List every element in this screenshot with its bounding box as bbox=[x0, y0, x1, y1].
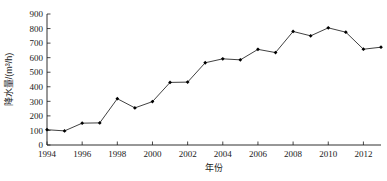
x-tick-label: 2000 bbox=[143, 149, 162, 159]
y-tick-label: 600 bbox=[30, 53, 44, 63]
chart-canvas: 0100200300400500600700800900 19941996199… bbox=[0, 0, 387, 181]
y-tick-label: 900 bbox=[30, 9, 44, 19]
data-point-marker bbox=[238, 58, 242, 62]
data-point-marker bbox=[63, 129, 67, 133]
x-tick-label: 1996 bbox=[73, 149, 92, 159]
y-axis-tick-marks bbox=[47, 14, 51, 145]
y-tick-label: 400 bbox=[30, 82, 44, 92]
x-tick-label: 2012 bbox=[354, 149, 372, 159]
data-point-marker bbox=[45, 128, 49, 132]
y-tick-label: 100 bbox=[30, 126, 44, 136]
x-tick-label: 2004 bbox=[214, 149, 233, 159]
y-tick-label: 300 bbox=[30, 97, 44, 107]
y-axis-title: 降水量/(m³/h) bbox=[3, 53, 14, 107]
x-axis-tick-labels: 1994199619982000200220042006200820102012 bbox=[38, 149, 372, 159]
data-point-marker bbox=[221, 57, 225, 61]
data-point-marker bbox=[379, 45, 383, 49]
data-point-marker bbox=[133, 106, 137, 110]
data-point-marker bbox=[80, 121, 84, 125]
data-point-marker bbox=[326, 26, 330, 30]
x-tick-label: 1994 bbox=[38, 149, 57, 159]
data-point-marker bbox=[256, 47, 260, 51]
x-tick-label: 2006 bbox=[249, 149, 268, 159]
precipitation-data-markers bbox=[45, 26, 383, 133]
x-tick-label: 2008 bbox=[284, 149, 303, 159]
x-axis-tick-marks bbox=[47, 142, 363, 146]
y-axis-tick-labels: 0100200300400500600700800900 bbox=[30, 9, 44, 150]
data-point-marker bbox=[309, 34, 313, 38]
x-axis-title: 年份 bbox=[205, 162, 223, 173]
y-tick-label: 500 bbox=[30, 67, 44, 77]
x-tick-label: 1998 bbox=[108, 149, 127, 159]
y-tick-label: 700 bbox=[30, 38, 44, 48]
x-tick-label: 2002 bbox=[179, 149, 197, 159]
x-axis: 1994199619982000200220042006200820102012 bbox=[38, 142, 381, 159]
y-tick-label: 200 bbox=[30, 111, 44, 121]
precipitation-series-line bbox=[47, 28, 381, 131]
x-tick-label: 2010 bbox=[319, 149, 338, 159]
precipitation-line-chart: 0100200300400500600700800900 19941996199… bbox=[0, 0, 387, 181]
y-tick-label: 800 bbox=[30, 24, 44, 34]
